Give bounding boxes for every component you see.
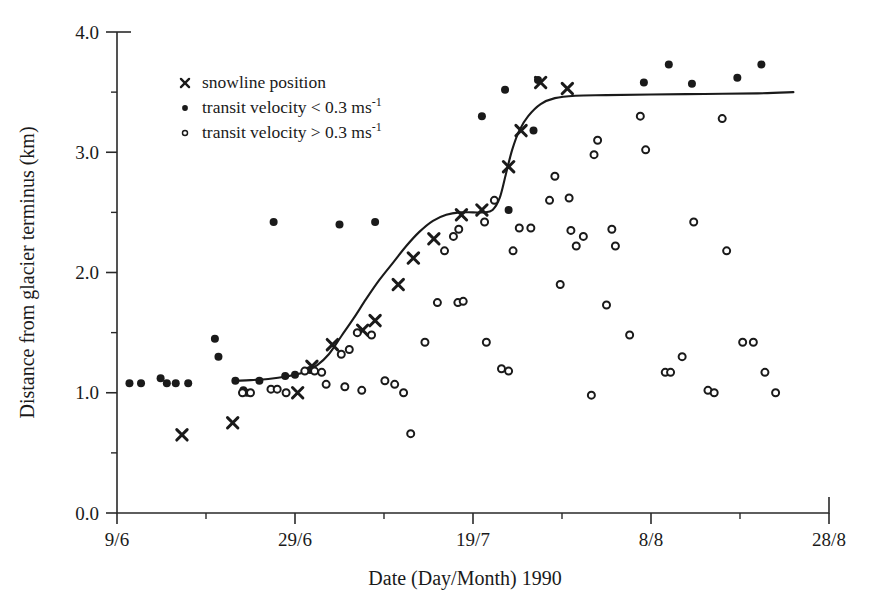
marker-filled-circle	[255, 377, 263, 385]
x-tick-label: 8/8	[639, 529, 663, 550]
y-tick-label: 0.0	[75, 503, 99, 524]
marker-filled-circle	[665, 60, 673, 68]
marker-filled-circle	[505, 206, 513, 214]
marker-open-circle	[491, 197, 498, 204]
marker-open-circle	[368, 332, 375, 339]
marker-open-circle	[679, 353, 686, 360]
marker-open-circle	[772, 389, 779, 396]
x-axis: 9/629/619/78/828/8	[105, 513, 846, 550]
marker-cross	[562, 83, 572, 93]
y-tick-label: 1.0	[75, 382, 99, 403]
y-axis-title: Distance from glacier terminus (km)	[16, 126, 39, 418]
marker-cross	[292, 388, 302, 398]
marker-cross	[429, 234, 439, 244]
legend-entry: transit velocity > 0.3 ms-1	[182, 120, 381, 142]
marker-open-circle	[483, 339, 490, 346]
marker-open-circle	[455, 226, 462, 233]
marker-filled-circle	[501, 86, 509, 94]
x-axis-title: Date (Day/Month) 1990	[368, 567, 561, 590]
marker-filled-circle	[733, 74, 741, 82]
marker-open-circle	[182, 130, 187, 135]
marker-open-circle	[690, 218, 697, 225]
marker-open-circle	[527, 225, 534, 232]
marker-open-circle	[311, 368, 318, 375]
marker-open-circle	[594, 137, 601, 144]
marker-open-circle	[441, 247, 448, 254]
marker-open-circle	[723, 247, 730, 254]
marker-filled-circle	[478, 112, 486, 120]
marker-open-circle	[566, 194, 573, 201]
marker-open-circle	[498, 365, 505, 372]
marker-open-circle	[588, 392, 595, 399]
marker-open-circle	[626, 332, 633, 339]
marker-open-circle	[573, 243, 580, 250]
marker-open-circle	[381, 377, 388, 384]
marker-cross	[393, 279, 403, 289]
x-tick-label: 29/6	[278, 529, 312, 550]
legend-exponent: -1	[372, 120, 382, 134]
legend-label: transit velocity > 0.3 ms-1	[202, 120, 382, 142]
marker-open-circle	[719, 115, 726, 122]
x-tick-label: 9/6	[105, 529, 129, 550]
marker-open-circle	[323, 381, 330, 388]
marker-open-circle	[481, 218, 488, 225]
marker-filled-circle	[757, 60, 765, 68]
marker-open-circle	[318, 369, 325, 376]
marker-open-circle	[283, 389, 290, 396]
marker-open-circle	[358, 387, 365, 394]
marker-open-circle	[567, 227, 574, 234]
marker-open-circle	[761, 369, 768, 376]
x-tick-label: 19/7	[456, 529, 490, 550]
marker-filled-circle	[530, 127, 538, 135]
marker-open-circle	[608, 226, 615, 233]
marker-filled-circle	[291, 371, 299, 379]
y-tick-label: 3.0	[75, 142, 99, 163]
marker-cross	[370, 315, 380, 325]
marker-filled-circle	[270, 218, 278, 226]
y-tick-label: 2.0	[75, 262, 99, 283]
legend-entry: snowline position	[181, 72, 326, 92]
glacier-snowline-scatter-chart: 0.01.02.03.04.0 9/629/619/78/828/8 snowl…	[0, 0, 877, 608]
marker-open-circle	[239, 389, 246, 396]
marker-open-circle	[750, 339, 757, 346]
marker-cross	[228, 418, 238, 428]
data-points	[125, 60, 779, 440]
legend-label: transit velocity < 0.3 ms-1	[202, 95, 382, 117]
marker-open-circle	[421, 339, 428, 346]
legend-exponent: -1	[372, 95, 382, 109]
marker-filled-circle	[125, 379, 133, 387]
marker-open-circle	[711, 389, 718, 396]
marker-open-circle	[591, 151, 598, 158]
marker-filled-circle	[211, 335, 219, 343]
marker-filled-circle	[182, 105, 188, 111]
marker-open-circle	[551, 173, 558, 180]
marker-cross	[181, 79, 189, 87]
marker-cross	[177, 430, 187, 440]
marker-filled-circle	[137, 379, 145, 387]
marker-filled-circle	[688, 80, 696, 88]
marker-open-circle	[637, 113, 644, 120]
marker-filled-circle	[640, 79, 648, 87]
marker-open-circle	[505, 368, 512, 375]
marker-filled-circle	[281, 372, 289, 380]
marker-open-circle	[612, 243, 619, 250]
marker-filled-circle	[184, 379, 192, 387]
marker-open-circle	[450, 233, 457, 240]
marker-open-circle	[407, 430, 414, 437]
marker-filled-circle	[214, 353, 222, 361]
y-axis: 0.01.02.03.04.0	[75, 22, 117, 524]
marker-filled-circle	[336, 220, 344, 228]
marker-cross	[408, 253, 418, 263]
marker-open-circle	[603, 301, 610, 308]
figure-container: 0.01.02.03.04.0 9/629/619/78/828/8 snowl…	[0, 0, 877, 608]
marker-open-circle	[557, 281, 564, 288]
marker-open-circle	[434, 299, 441, 306]
marker-cross	[456, 210, 466, 220]
marker-open-circle	[546, 197, 553, 204]
marker-open-circle	[516, 225, 523, 232]
marker-open-circle	[642, 146, 649, 153]
marker-open-circle	[400, 389, 407, 396]
marker-filled-circle	[231, 377, 239, 385]
marker-filled-circle	[371, 218, 379, 226]
x-tick-label: 28/8	[812, 529, 846, 550]
